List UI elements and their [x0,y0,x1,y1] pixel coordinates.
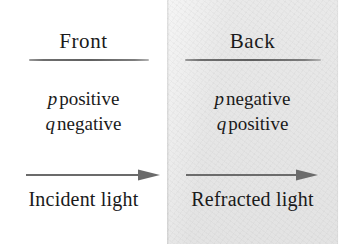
refracted-light-caption: Refracted light [167,186,338,212]
back-variable-p: p [215,88,227,109]
back-sign-line-q: qpositive [167,111,338,136]
sign-convention-figure: Front ppositive qnegative Incident light… [0,0,349,244]
front-sign-line-q: qnegative [0,111,167,136]
back-sign-conventions: pnegative qpositive [167,86,338,136]
incident-light-caption: Incident light [0,186,167,212]
back-sign-q: positive [228,113,288,134]
front-sign-p: positive [59,88,119,109]
front-sign-line-p: ppositive [0,86,167,111]
back-sign-p: negative [226,88,290,109]
back-sign-line-p: pnegative [167,86,338,111]
front-variable-p: p [48,88,60,109]
back-region-column: Back pnegative qpositive Refracted light [167,0,338,244]
front-sign-q: negative [57,113,121,134]
front-sign-conventions: ppositive qnegative [0,86,167,136]
refracted-light-arrow [186,169,318,181]
back-heading: Back [167,28,338,54]
front-region-column: Front ppositive qnegative Incident light [0,0,167,244]
front-variable-q: q [46,113,58,134]
back-heading-underline [185,59,321,61]
incident-light-arrow [26,169,160,181]
front-heading: Front [0,28,167,54]
back-variable-q: q [217,113,229,134]
front-heading-underline [29,59,149,61]
